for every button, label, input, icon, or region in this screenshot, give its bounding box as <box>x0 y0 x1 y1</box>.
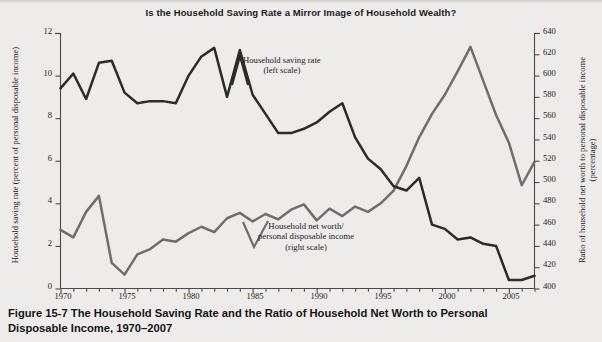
annotation-saving-rate-line1: Household saving rate <box>243 55 321 65</box>
annotation-net-worth-line1: Household net worth/ <box>268 221 343 231</box>
figure-container: Is the Household Saving Rate a Mirror Im… <box>0 0 602 342</box>
annotation-saving-rate-line2: (left scale) <box>263 65 300 75</box>
figure-caption: Figure 15-7 The Household Saving Rate an… <box>8 306 508 336</box>
chart-plot-area <box>0 0 602 342</box>
left-axis-ticks <box>56 34 61 290</box>
annotation-net-worth: Household net worth/ personal disposable… <box>258 221 354 252</box>
figure-caption-text: The Household Saving Rate and the Ratio … <box>8 307 488 334</box>
figure-number: Figure 15-7 <box>8 307 68 319</box>
annotation-saving-rate: Household saving rate (left scale) <box>243 55 321 76</box>
annotation-net-worth-line3: (right scale) <box>285 242 327 252</box>
x-axis-ticks <box>61 289 535 294</box>
annotation-net-worth-line2: personal disposable income <box>258 231 354 241</box>
